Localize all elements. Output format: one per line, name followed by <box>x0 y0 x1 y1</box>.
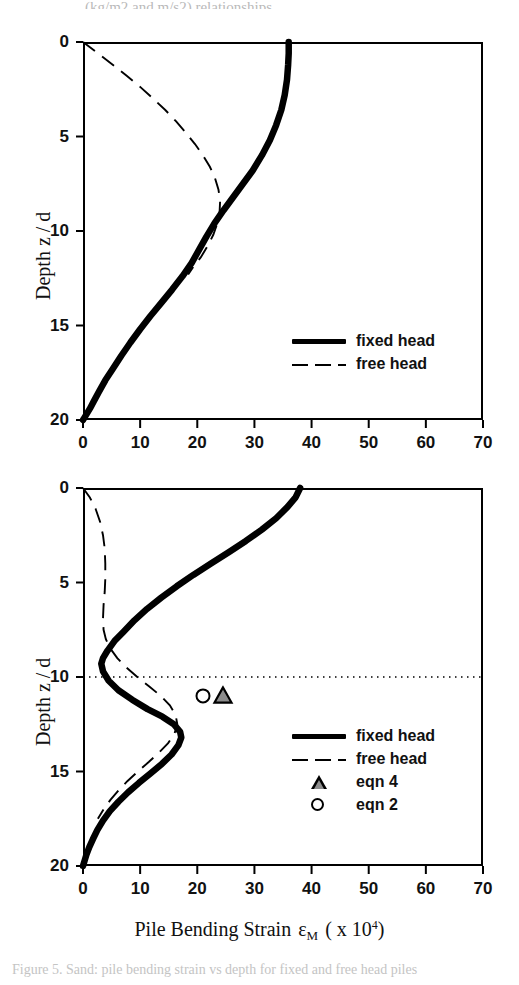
legend-row: free head <box>290 353 480 376</box>
y-tick-label: 10 <box>35 222 69 239</box>
figure-caption: Figure 5. Sand: pile bending strain vs d… <box>12 962 512 985</box>
x-tick-label: 20 <box>177 434 217 451</box>
circle-marker-icon <box>290 794 348 817</box>
x-axis-title-main: Pile Bending Strain <box>135 918 292 940</box>
triangle-marker-icon <box>290 771 348 794</box>
x-axis-paren-open: ( x 10 <box>325 918 372 940</box>
chart-bottom: Depth z / d fixed head free head eqn 4 <box>0 460 519 920</box>
thick-solid-line-icon <box>290 725 348 748</box>
x-tick-label: 60 <box>406 434 446 451</box>
legend-label: free head <box>356 355 427 373</box>
legend-label: fixed head <box>356 727 435 745</box>
x-tick-label: 20 <box>177 880 217 897</box>
dashed-line-icon <box>290 748 348 771</box>
y-tick-label: 0 <box>35 479 69 496</box>
chart-top: Depth z / d fixed head free head 0510152… <box>0 0 519 460</box>
legend-label: eqn 2 <box>356 796 398 814</box>
x-tick-label: 70 <box>463 434 503 451</box>
x-tick-label: 10 <box>120 880 160 897</box>
thick-solid-line-icon <box>290 330 348 353</box>
legend-row: fixed head <box>290 725 480 748</box>
x-axis-subscript: M <box>307 928 319 943</box>
x-axis-symbol: ε <box>298 918 306 940</box>
x-tick-label: 40 <box>292 880 332 897</box>
x-tick-label: 0 <box>63 880 103 897</box>
y-tick-label: 5 <box>35 574 69 591</box>
x-tick-label: 10 <box>120 434 160 451</box>
y-tick-label: 15 <box>35 317 69 334</box>
x-tick-label: 40 <box>292 434 332 451</box>
x-axis-paren-close: ) <box>378 918 385 940</box>
plot-curves-bottom <box>0 460 519 920</box>
legend-top: fixed head free head <box>290 330 480 376</box>
x-tick-label: 30 <box>234 434 274 451</box>
legend-row: eqn 2 <box>290 794 480 817</box>
legend-label: eqn 4 <box>356 773 398 791</box>
legend-row: free head <box>290 748 480 771</box>
legend-row: eqn 4 <box>290 771 480 794</box>
x-tick-label: 70 <box>463 880 503 897</box>
y-tick-label: 15 <box>35 763 69 780</box>
legend-label: free head <box>356 750 427 768</box>
figure-container: (kg/m2 and m/s2) relationships Depth z /… <box>0 0 519 985</box>
x-tick-label: 50 <box>349 434 389 451</box>
dashed-line-icon <box>290 353 348 376</box>
legend-bottom: fixed head free head eqn 4 eqn 2 <box>290 725 480 817</box>
x-axis-title: Pile Bending StrainεM( x 104) <box>0 918 519 944</box>
x-tick-label: 30 <box>234 880 274 897</box>
y-tick-label: 20 <box>35 411 69 428</box>
legend-row: fixed head <box>290 330 480 353</box>
y-tick-label: 0 <box>35 33 69 50</box>
y-tick-label: 10 <box>35 668 69 685</box>
y-tick-label: 5 <box>35 128 69 145</box>
x-tick-label: 50 <box>349 880 389 897</box>
y-tick-label: 20 <box>35 857 69 874</box>
plot-curves-top <box>0 0 519 460</box>
x-tick-label: 0 <box>63 434 103 451</box>
x-tick-label: 60 <box>406 880 446 897</box>
legend-label: fixed head <box>356 332 435 350</box>
